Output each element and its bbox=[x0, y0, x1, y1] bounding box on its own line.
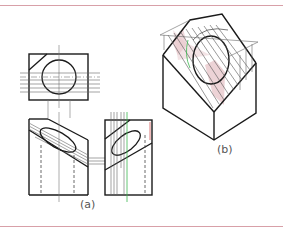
label-view-b: (b) bbox=[217, 143, 233, 156]
top-view bbox=[20, 45, 100, 118]
front-view bbox=[29, 112, 105, 202]
isometric-view bbox=[160, 14, 258, 140]
drawing-canvas bbox=[0, 0, 283, 235]
label-view-a: (a) bbox=[80, 198, 95, 211]
side-view bbox=[105, 112, 152, 202]
